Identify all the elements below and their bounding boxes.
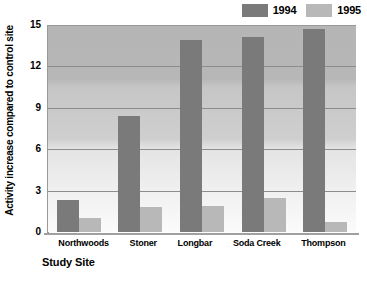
bar-1995[interactable] [140, 207, 162, 232]
bar-1994[interactable] [180, 40, 202, 232]
bar-1994[interactable] [57, 200, 79, 232]
x-axis-title: Study Site [42, 256, 95, 268]
x-tick-label: Northwoods [58, 238, 109, 248]
bar-1995[interactable] [79, 218, 101, 232]
bar-1995[interactable] [325, 222, 347, 232]
x-tick-label: Soda Creek [233, 238, 281, 248]
bar-group [57, 25, 101, 232]
y-tick-label: 0 [35, 227, 41, 237]
x-tick-label: Thompson [301, 238, 345, 248]
y-tick-label: 9 [35, 103, 41, 113]
x-tick-label: Stoner [130, 238, 157, 248]
x-axis-tick-labels: NorthwoodsStonerLongbarSoda CreekThompso… [48, 238, 356, 248]
bar-group [242, 25, 286, 232]
plot-area [48, 25, 356, 232]
bar-1995[interactable] [202, 206, 224, 232]
y-tick-label: 12 [30, 61, 41, 71]
y-axis-title-text: Activity increase compared to control si… [4, 25, 15, 216]
bar-group [303, 25, 347, 232]
bar-group [180, 25, 224, 232]
bar-groups [48, 25, 356, 232]
y-tick-label: 6 [35, 144, 41, 154]
bar-1995[interactable] [264, 198, 286, 233]
bar-group [118, 25, 162, 232]
chart-legend: 1994 1995 [242, 4, 361, 17]
x-tick-label: Longbar [178, 238, 213, 248]
y-tick-label: 15 [30, 20, 41, 30]
bar-1994[interactable] [303, 29, 325, 232]
legend-swatch-1995 [306, 4, 332, 17]
y-axis-tick-labels: 03691215 [20, 25, 44, 232]
bar-1994[interactable] [118, 116, 140, 232]
legend-label-1995: 1995 [337, 5, 361, 16]
legend-swatch-1994 [242, 4, 268, 17]
legend-label-1994: 1994 [273, 5, 297, 16]
x-axis-line [44, 233, 359, 235]
bar-1994[interactable] [242, 37, 264, 232]
legend-entry-1994: 1994 [242, 4, 297, 17]
legend-entry-1995: 1995 [306, 4, 361, 17]
y-axis-title: Activity increase compared to control si… [0, 0, 18, 240]
y-tick-label: 3 [35, 186, 41, 196]
